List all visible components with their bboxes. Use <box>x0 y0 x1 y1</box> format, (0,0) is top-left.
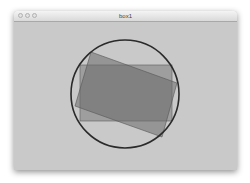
drawing-canvas <box>0 0 250 183</box>
